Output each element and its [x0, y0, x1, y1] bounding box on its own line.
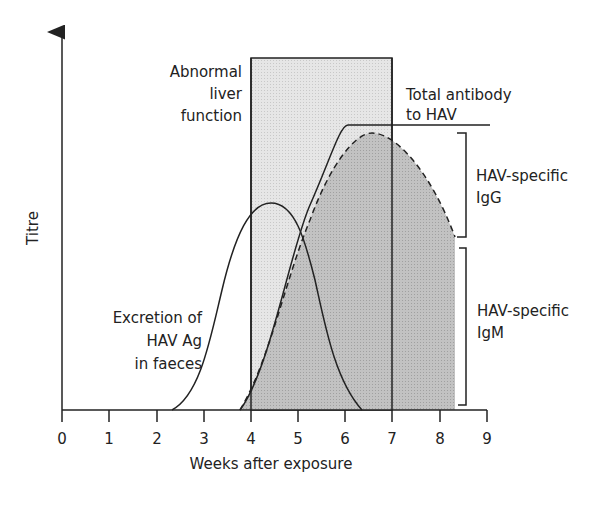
igm-bracket	[458, 248, 466, 405]
svg-text:Abnormal: Abnormal	[170, 63, 242, 81]
liver-function-label: Abnormal liver function	[170, 63, 243, 125]
tick-label-7: 7	[387, 430, 397, 448]
svg-text:function: function	[181, 107, 242, 125]
tick-label-8: 8	[435, 430, 445, 448]
igg-bracket	[457, 133, 466, 237]
tick-label-3: 3	[199, 430, 209, 448]
tick-label-4: 4	[246, 430, 256, 448]
excretion-label: Excretion of HAV Ag in faeces	[113, 309, 203, 373]
x-axis-ticks	[62, 410, 487, 422]
svg-text:HAV Ag: HAV Ag	[147, 332, 202, 350]
x-axis-tick-labels: 0 1 2 3 4 5 6 7 8 9	[57, 430, 492, 448]
tick-label-6: 6	[340, 430, 350, 448]
svg-text:IgG: IgG	[476, 189, 502, 207]
svg-text:to HAV: to HAV	[406, 106, 457, 124]
igg-label: HAV-specific IgG	[476, 167, 568, 207]
tick-label-1: 1	[104, 430, 114, 448]
tick-label-9: 9	[482, 430, 492, 448]
tick-label-5: 5	[293, 430, 303, 448]
tick-label-2: 2	[152, 430, 162, 448]
hav-infection-diagram: 0 1 2 3 4 5 6 7 8 9 Weeks after exposure…	[0, 0, 612, 506]
svg-text:Excretion of: Excretion of	[113, 309, 203, 327]
y-axis-label: Titre	[24, 211, 42, 246]
tick-label-0: 0	[57, 430, 67, 448]
svg-text:in faeces: in faeces	[135, 355, 203, 373]
svg-text:HAV-specific: HAV-specific	[476, 167, 568, 185]
x-axis-label: Weeks after exposure	[190, 455, 353, 473]
svg-text:liver: liver	[209, 85, 242, 103]
igm-label: HAV-specific IgM	[477, 302, 569, 342]
total-antibody-label: Total antibody to HAV	[405, 86, 512, 124]
svg-text:Total antibody: Total antibody	[405, 86, 512, 104]
svg-text:IgM: IgM	[477, 324, 504, 342]
svg-text:HAV-specific: HAV-specific	[477, 302, 569, 320]
